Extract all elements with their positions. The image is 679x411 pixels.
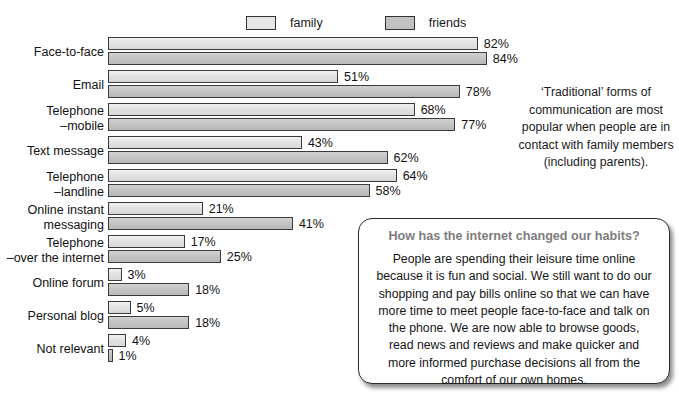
bar-line-friends: 18% [108, 283, 220, 296]
category-bars: 3%18% [108, 268, 220, 298]
bar-line-friends: 78% [108, 85, 491, 98]
bar-value-label: 21% [209, 202, 234, 216]
bar-line-family: 3% [108, 268, 220, 281]
category-label: Personal blog [0, 300, 104, 333]
bar-line-friends: 84% [108, 52, 518, 65]
bar-value-label: 41% [299, 217, 324, 231]
bar-line-family: 51% [108, 70, 491, 83]
category-bars: 68%77% [108, 103, 486, 133]
category-label-line: Telephone [46, 170, 104, 185]
bar-family [108, 268, 122, 281]
category-label: Telephone–landline [0, 168, 104, 201]
chart-category-row: Telephone–mobile68%77% [0, 102, 520, 135]
bar-family [108, 235, 185, 248]
legend-swatch-icon-friends [385, 16, 415, 30]
bar-value-label: 1% [119, 349, 137, 363]
bar-value-label: 51% [344, 70, 369, 84]
category-label-line: Telephone [46, 104, 104, 119]
category-label: Text message [0, 135, 104, 168]
bar-line-family: 68% [108, 103, 486, 116]
side-note-text: ‘Traditional’ forms of communication are… [518, 84, 674, 172]
bar-friends [108, 184, 370, 197]
bar-value-label: 78% [466, 85, 491, 99]
bar-value-label: 64% [403, 169, 428, 183]
legend-label-family: family [290, 16, 323, 30]
bar-line-friends: 41% [108, 217, 324, 230]
category-bars: 21%41% [108, 202, 324, 232]
bar-line-friends: 18% [108, 316, 220, 329]
bar-friends [108, 316, 189, 329]
bar-family [108, 334, 126, 347]
category-bars: 64%58% [108, 169, 428, 199]
category-label-line: Email [73, 78, 104, 93]
category-label: Email [0, 69, 104, 102]
category-label-line: Text message [27, 144, 104, 159]
callout-box: How has the internet changed our habits?… [358, 218, 670, 384]
legend-label-friends: friends [429, 16, 467, 30]
chart-legend: familyfriends [246, 14, 466, 32]
bar-value-label: 18% [195, 316, 220, 330]
bar-line-friends: 77% [108, 118, 486, 131]
bar-line-friends: 1% [108, 349, 150, 362]
chart-category-row: Email51%78% [0, 69, 520, 102]
chart-category-row: Face-to-face82%84% [0, 36, 520, 69]
category-bars: 17%25% [108, 235, 252, 265]
category-label-line: Face-to-face [34, 45, 104, 60]
bar-value-label: 77% [461, 118, 486, 132]
bar-line-family: 43% [108, 136, 419, 149]
bar-line-family: 21% [108, 202, 324, 215]
bar-friends [108, 283, 189, 296]
category-bars: 82%84% [108, 37, 518, 67]
category-label-line: Telephone [46, 236, 104, 251]
bar-value-label: 84% [493, 52, 518, 66]
bar-value-label: 43% [308, 136, 333, 150]
legend-item-family: family [246, 16, 323, 30]
bar-family [108, 136, 302, 149]
bar-value-label: 3% [128, 268, 146, 282]
bar-line-family: 82% [108, 37, 518, 50]
bar-line-family: 64% [108, 169, 428, 182]
bar-line-friends: 62% [108, 151, 419, 164]
bar-value-label: 58% [376, 184, 401, 198]
bar-value-label: 17% [191, 235, 216, 249]
legend-item-friends: friends [385, 16, 467, 30]
category-label: Face-to-face [0, 36, 104, 69]
category-label-line: –landline [54, 185, 104, 200]
bar-value-label: 4% [132, 334, 150, 348]
bar-friends [108, 250, 221, 263]
category-bars: 51%78% [108, 70, 491, 100]
bar-line-family: 4% [108, 334, 150, 347]
bar-friends [108, 85, 460, 98]
bar-family [108, 202, 203, 215]
category-label: Telephone–mobile [0, 102, 104, 135]
bar-value-label: 82% [484, 37, 509, 51]
bar-value-label: 5% [137, 301, 155, 315]
chart-category-row: Text message43%62% [0, 135, 520, 168]
category-label-line: Online instant [28, 203, 104, 218]
bar-value-label: 25% [227, 250, 252, 264]
bar-family [108, 37, 478, 50]
bar-family [108, 169, 397, 182]
bar-family [108, 103, 415, 116]
bar-friends [108, 118, 455, 131]
bar-line-family: 17% [108, 235, 252, 248]
bar-family [108, 301, 131, 314]
category-label-line: –over the internet [7, 251, 104, 266]
category-label: Online instantmessaging [0, 201, 104, 234]
bar-family [108, 70, 338, 83]
category-label-line: Online forum [32, 276, 104, 291]
bar-value-label: 18% [195, 283, 220, 297]
category-bars: 4%1% [108, 334, 150, 364]
chart-category-row: Telephone–landline64%58% [0, 168, 520, 201]
bar-value-label: 68% [421, 103, 446, 117]
bar-line-family: 5% [108, 301, 220, 314]
category-label-line: Not relevant [37, 342, 104, 357]
bar-friends [108, 349, 113, 362]
category-label-line: messaging [44, 218, 104, 233]
category-label: Telephone–over the internet [0, 234, 104, 267]
legend-swatch-icon-family [246, 16, 276, 30]
bar-line-friends: 25% [108, 250, 252, 263]
category-label-line: –mobile [60, 119, 104, 134]
callout-heading: How has the internet changed our habits? [375, 228, 653, 244]
category-bars: 5%18% [108, 301, 220, 331]
